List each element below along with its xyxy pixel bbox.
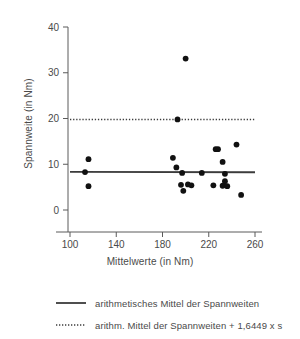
x-axis-tick-label: 100 <box>62 239 79 250</box>
y-axis-title: Spannweite (in Nm) <box>23 34 34 214</box>
legend-label-arithmetic-mean: arithmetisches Mittel der Spannweiten <box>95 298 259 309</box>
plot-area: 010203040100140180220260 <box>0 0 300 285</box>
data-point <box>199 170 205 176</box>
data-point <box>178 182 184 188</box>
legend-item-arithmetic-mean: arithmetisches Mittel der Spannweiten <box>0 292 300 314</box>
chart-legend: arithmetisches Mittel der Spannweiten ar… <box>0 292 300 336</box>
data-point <box>86 183 92 189</box>
x-axis-title: Mittelwerte (in Nm) <box>0 256 300 267</box>
scatter-plot-figure: 010203040100140180220260 Spannweite (in … <box>0 0 300 339</box>
data-point <box>224 183 230 189</box>
data-point <box>175 117 181 123</box>
data-point <box>170 155 176 161</box>
data-point <box>189 182 195 188</box>
data-point <box>173 165 179 171</box>
data-point <box>215 146 221 152</box>
y-axis-tick-label: 20 <box>48 113 60 124</box>
y-axis-tick-label: 0 <box>53 205 59 216</box>
data-point <box>238 192 244 198</box>
legend-dotted-line-swatch <box>56 320 86 330</box>
legend-item-mean-plus-sigma: arithm. Mittel der Spannweiten + 1,6449 … <box>0 314 300 336</box>
plot-canvas: 010203040100140180220260 <box>0 0 300 285</box>
x-axis-tick-label: 140 <box>108 239 125 250</box>
data-point <box>179 170 185 176</box>
x-axis-tick-label: 220 <box>200 239 217 250</box>
y-axis-tick-label: 30 <box>48 67 60 78</box>
data-point <box>180 188 186 194</box>
y-axis-tick-label: 10 <box>48 159 60 170</box>
data-point <box>220 159 226 165</box>
data-point <box>222 171 228 177</box>
data-point <box>183 56 189 62</box>
data-point <box>82 169 88 175</box>
data-point <box>86 156 92 162</box>
data-point <box>234 142 240 148</box>
x-axis-tick-label: 260 <box>247 239 264 250</box>
legend-label-mean-plus-sigma: arithm. Mittel der Spannweiten + 1,6449 … <box>95 320 282 331</box>
legend-solid-line-swatch <box>56 298 86 308</box>
x-axis-tick-label: 180 <box>154 239 171 250</box>
data-point <box>210 182 216 188</box>
y-axis-tick-label: 40 <box>48 22 60 33</box>
